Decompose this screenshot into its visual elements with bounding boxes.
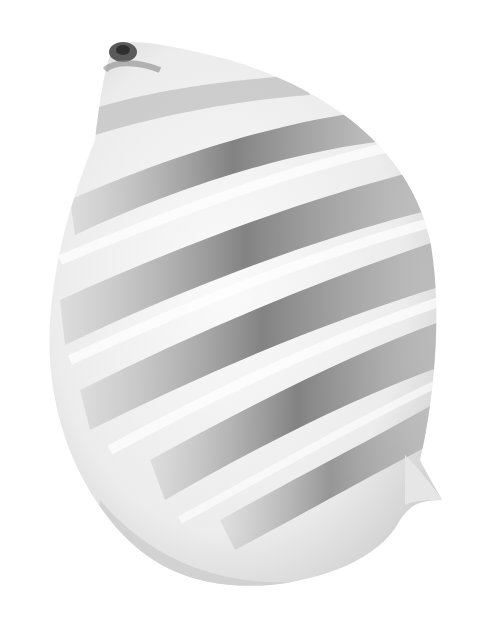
shell-lip bbox=[405, 455, 442, 505]
seashell-photo bbox=[0, 0, 481, 622]
seashell-illustration bbox=[0, 0, 481, 622]
